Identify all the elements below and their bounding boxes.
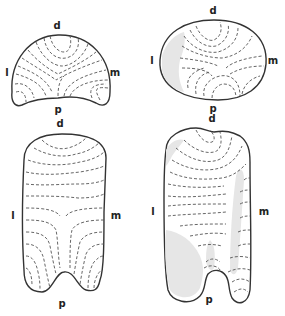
panel-top-left: d l m p bbox=[5, 20, 120, 115]
diagram-canvas: d l m p d l m p bbox=[0, 0, 285, 316]
label-p-bottom-left: p bbox=[58, 298, 65, 309]
panel-bottom-right: d l m p bbox=[151, 113, 269, 305]
panel-bottom-left: d l m p bbox=[11, 118, 121, 309]
label-m-top-left: m bbox=[110, 67, 120, 78]
label-l-top-right: l bbox=[150, 55, 153, 66]
label-m-bottom-left: m bbox=[111, 210, 121, 221]
panel-top-right: d l m p bbox=[150, 5, 278, 114]
label-d-bottom-right: d bbox=[208, 113, 215, 124]
label-p-bottom-right: p bbox=[205, 294, 212, 305]
label-l-top-left: l bbox=[5, 67, 8, 78]
outline-bottom-left bbox=[23, 134, 107, 292]
label-d-bottom-left: d bbox=[56, 118, 63, 129]
label-d-top-left: d bbox=[53, 20, 60, 31]
outline-top-left bbox=[12, 35, 110, 106]
label-l-bottom-right: l bbox=[151, 206, 154, 217]
label-p-top-left: p bbox=[54, 104, 61, 115]
label-m-bottom-right: m bbox=[259, 206, 269, 217]
label-l-bottom-left: l bbox=[11, 210, 14, 221]
label-m-top-right: m bbox=[268, 55, 278, 66]
label-d-top-right: d bbox=[209, 5, 216, 16]
